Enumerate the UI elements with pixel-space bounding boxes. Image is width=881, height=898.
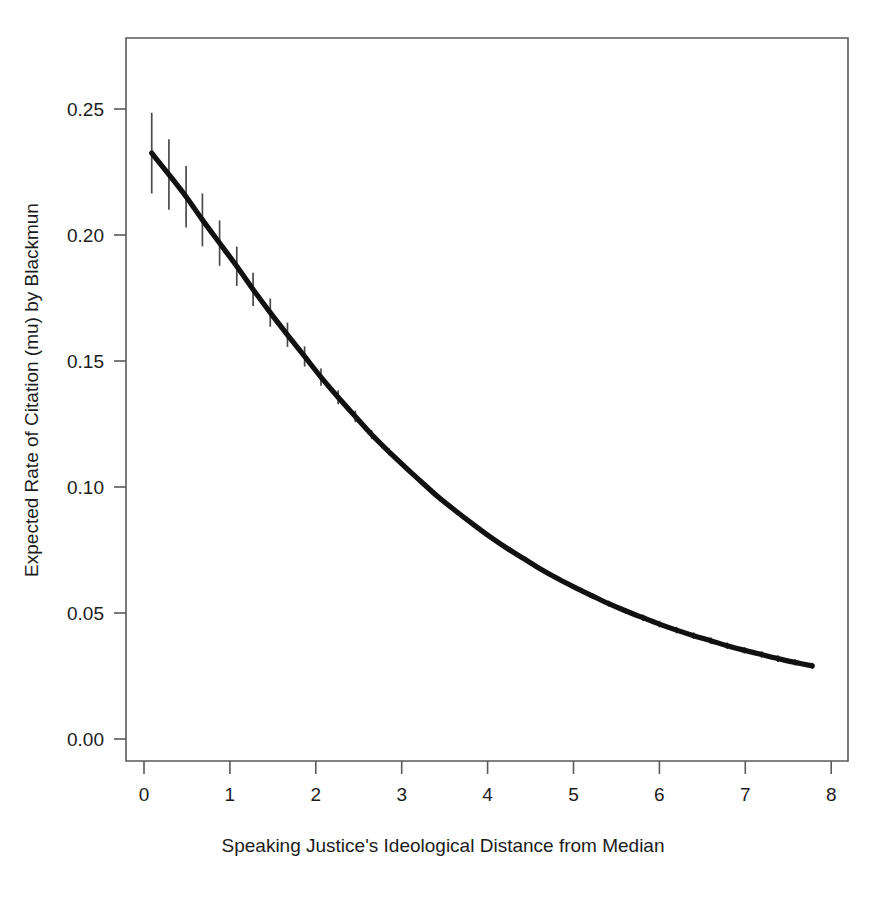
x-tick-label: 3 xyxy=(396,784,407,805)
plot-svg: 0.000.050.100.150.200.25 012345678 Speak… xyxy=(0,0,881,898)
canvas-background xyxy=(0,0,881,898)
x-axis-title: Speaking Justice's Ideological Distance … xyxy=(222,835,665,856)
y-tick-label: 0.10 xyxy=(67,477,104,498)
x-tick-label: 7 xyxy=(740,784,751,805)
chart-container: 0.000.050.100.150.200.25 012345678 Speak… xyxy=(0,0,881,898)
y-tick-label: 0.15 xyxy=(67,351,104,372)
x-tick-label: 6 xyxy=(654,784,665,805)
x-tick-label: 4 xyxy=(482,784,493,805)
x-tick-label: 1 xyxy=(225,784,236,805)
y-tick-label: 0.20 xyxy=(67,225,104,246)
y-tick-label: 0.25 xyxy=(67,99,104,120)
x-tick-label: 8 xyxy=(826,784,837,805)
x-tick-label: 0 xyxy=(139,784,150,805)
y-tick-label: 0.05 xyxy=(67,603,104,624)
x-tick-label: 5 xyxy=(568,784,579,805)
y-axis-title: Expected Rate of Citation (mu) by Blackm… xyxy=(21,203,42,577)
y-tick-label: 0.00 xyxy=(67,729,104,750)
x-tick-label: 2 xyxy=(311,784,322,805)
